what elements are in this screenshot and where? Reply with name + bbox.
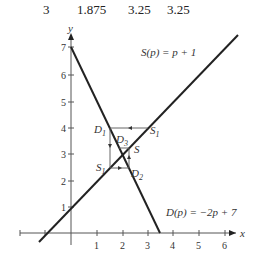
label-s1-left: S1 [96, 161, 106, 176]
y-tick-labels: 1 2 3 4 5 6 7 [61, 42, 66, 213]
y-tick-label: 6 [61, 70, 66, 81]
y-tick-label: 7 [61, 42, 66, 53]
arrow-left-icon [128, 126, 132, 130]
y-tick-label: 3 [61, 149, 66, 160]
label-d2: D2 [130, 167, 143, 182]
y-tick-label: 4 [61, 123, 66, 134]
label-d1: D1 [93, 123, 106, 138]
x-tick-label: 4 [170, 240, 175, 251]
demand-equation-label: D(p) = −2p + 7 [165, 206, 237, 219]
cobweb-graph: x y 1 2 3 4 5 6 1 2 3 4 5 6 7 S(p) = p +… [0, 0, 256, 260]
supply-equation-label: S(p) = p + 1 [141, 46, 196, 59]
x-tick-label: 2 [120, 240, 125, 251]
y-tick-label: 2 [61, 176, 66, 187]
arrow-up-icon [127, 155, 131, 159]
y-axis-label: y [67, 22, 73, 34]
label-d3: D3 [115, 133, 128, 148]
x-tick-label: 1 [94, 240, 99, 251]
y-tick-label: 1 [61, 202, 66, 213]
x-axis-arrow-icon [229, 230, 236, 236]
x-tick-label: 3 [145, 240, 150, 251]
x-axis-label: x [239, 227, 245, 239]
arrow-down-icon [108, 144, 112, 148]
y-tick-label: 5 [61, 97, 66, 108]
x-tick-label: 6 [222, 240, 227, 251]
arrow-right-icon [118, 166, 122, 170]
x-tick-labels: 1 2 3 4 5 6 [94, 240, 227, 251]
label-s1-right: S1 [150, 124, 160, 139]
y-axis-arrow-icon [68, 33, 74, 40]
x-tick-label: 5 [196, 240, 201, 251]
label-s: S [134, 143, 140, 155]
